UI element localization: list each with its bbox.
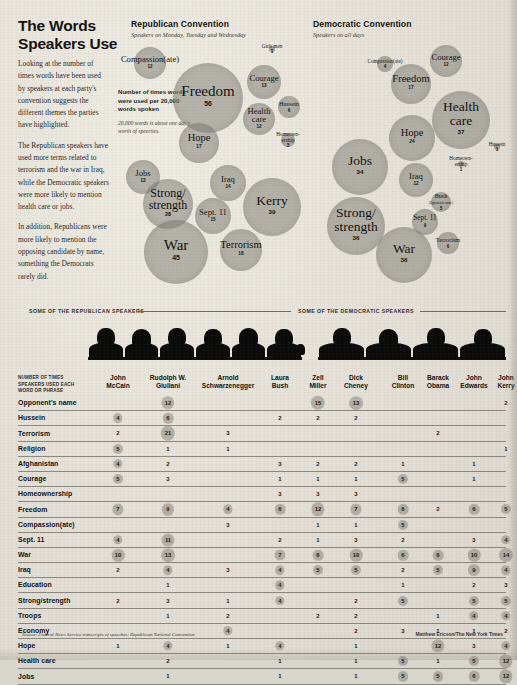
cell-value: 2 [116, 567, 119, 573]
cell-value: 5 [472, 598, 475, 604]
table-cell: 13 [335, 396, 377, 410]
cell-value: 1 [436, 658, 439, 664]
cell-value: 1 [504, 446, 507, 452]
table-row-label: Courage [18, 475, 46, 482]
table-cell: 4 [207, 624, 249, 638]
table-cell: 1 [207, 442, 249, 456]
cell-value: 4 [278, 643, 281, 649]
table-row-label: Troops [18, 612, 41, 619]
table-row: Courage5311151 [18, 471, 506, 486]
cell-value: 1 [278, 476, 281, 482]
column-header-last: Schwarzenegger [196, 382, 260, 390]
table-row-label: War [18, 551, 31, 558]
table-column-header: ArnoldSchwarzenegger [196, 374, 260, 391]
bubble-label: War36 [344, 242, 464, 263]
cell-value: 2 [166, 461, 169, 467]
cell-value: 2 [226, 613, 229, 619]
table-cell: 6 [147, 411, 189, 425]
cell-value: 5 [401, 522, 404, 528]
bubble-label: Courage12 [386, 53, 506, 68]
cell-value: 9 [472, 567, 475, 573]
cell-value: 3 [354, 537, 357, 543]
table-row-label: Jobs [18, 673, 34, 680]
table-row: War10137610661014 [18, 547, 506, 562]
cell-value: 4 [166, 643, 169, 649]
bubble-label: Healthcare12 [199, 107, 319, 130]
table-cell: 4 [207, 502, 249, 516]
cell-value: 1 [436, 613, 439, 619]
table-cell: 2 [259, 411, 301, 425]
table-row: Troops1222144 [18, 608, 506, 623]
word-count-table: NUMBER OF TIMES SPEAKERS USED EACH WORD … [18, 372, 506, 685]
raised-hand-silhouette [296, 344, 305, 355]
table-cell [297, 624, 339, 638]
column-header-first: Arnold [196, 374, 260, 382]
cell-value: 3 [226, 430, 229, 436]
table-cell: 12 [297, 502, 339, 516]
table-cell [97, 396, 139, 410]
table-cell [97, 578, 139, 592]
cell-value: 21 [165, 430, 172, 436]
table-cell [147, 518, 189, 532]
cell-value: 1 [166, 446, 169, 452]
cell-value: 5 [116, 476, 119, 482]
cell-value: 2 [504, 628, 507, 634]
table-cell [259, 426, 301, 440]
table-row: Hussein46222 [18, 410, 506, 425]
table-row-label: Iraq [18, 566, 31, 573]
cell-value: 3 [278, 491, 281, 497]
column-header-last: Miller [297, 382, 339, 390]
table-cell: 1 [147, 669, 189, 683]
bubble-label: Iraq12 [356, 172, 476, 187]
cell-value: 7 [354, 506, 357, 512]
table-cell: 1 [259, 472, 301, 486]
table-corner-note: NUMBER OF TIMES SPEAKERS USED EACH WORD … [18, 375, 84, 395]
table-cell: 5 [97, 442, 139, 456]
table-cell: 2 [97, 593, 139, 607]
column-header-first: Zell [297, 374, 339, 382]
table-cell: 2 [297, 411, 339, 425]
table-cell: 12 [147, 396, 189, 410]
table-cell: 2 [297, 457, 339, 471]
column-header-last: Cheney [335, 382, 377, 390]
cell-value: 4 [116, 415, 119, 421]
bubble-label: Hope24 [352, 128, 472, 145]
cell-value: 3 [504, 582, 507, 588]
table-cell [207, 548, 249, 562]
cell-value: 13 [353, 400, 360, 406]
table-row-label: Terrorism [18, 430, 50, 437]
table-cell: 5 [97, 472, 139, 486]
bubble-label: Sept. 119 [365, 215, 485, 228]
cell-value: 2 [166, 658, 169, 664]
cell-value: 5 [401, 476, 404, 482]
cell-value: 1 [166, 613, 169, 619]
column-header-last: McCain [97, 382, 139, 390]
table-row: Compassion(ate)3115 [18, 517, 506, 532]
table-cell: 2 [147, 457, 189, 471]
cell-value: 4 [504, 567, 507, 573]
table-cell [207, 457, 249, 471]
cell-value: 12 [315, 506, 322, 512]
table-cell: 2 [259, 533, 301, 547]
table-cell: 3 [259, 487, 301, 501]
table-cell: 1 [207, 593, 249, 607]
cell-value: 2 [436, 430, 439, 436]
table-cell [335, 442, 377, 456]
table-cell: 3 [207, 518, 249, 532]
cell-value: 10 [353, 552, 360, 558]
cell-value: 1 [401, 582, 404, 588]
cell-value: 6 [401, 506, 404, 512]
band-rule-left [136, 311, 291, 312]
table-cell [97, 487, 139, 501]
table-cell: 1 [297, 472, 339, 486]
table-row: Homeownership333 [18, 486, 506, 501]
table-cell: 3 [147, 593, 189, 607]
speaker-silhouette-body [366, 343, 410, 360]
cell-value: 3 [278, 461, 281, 467]
bubble-label: Girls men1 [212, 44, 332, 55]
cell-value: 6 [278, 506, 281, 512]
cell-value: 6 [316, 552, 319, 558]
cell-value: 5 [436, 673, 439, 679]
cell-value: 6 [166, 415, 169, 421]
table-cell: 12 [485, 669, 517, 683]
